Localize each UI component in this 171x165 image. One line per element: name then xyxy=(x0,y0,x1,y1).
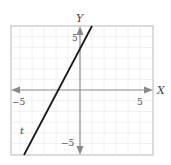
x-tick-neg5: −5 xyxy=(12,97,26,107)
y-tick-neg5: −5 xyxy=(61,138,75,148)
y-tick-pos5: 5 xyxy=(72,33,78,43)
x-tick-pos5: 5 xyxy=(137,97,143,107)
y-axis-label: Y xyxy=(76,12,85,25)
coordinate-plane: Y X −5 5 5 −5 t xyxy=(0,0,171,165)
x-axis-label: X xyxy=(156,84,166,97)
